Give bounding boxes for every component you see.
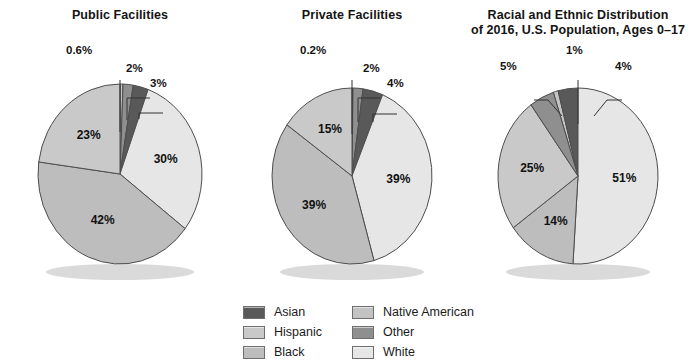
- chart-title-2: Racial and Ethnic Distribution of 2016, …: [462, 8, 694, 38]
- pie-slice-value-black: 42%: [91, 213, 115, 227]
- legend-item-label: Native American: [383, 306, 474, 319]
- pie-slice-value-white: 30%: [154, 152, 178, 166]
- pie-chart-2: 51%14%25%: [480, 80, 676, 276]
- pie-chart-0: 30%42%23%: [20, 76, 220, 276]
- pie-slice-value-hispanic: 15%: [318, 122, 342, 136]
- callout-2-asian: 4%: [615, 60, 632, 72]
- pie-shadow-2: [506, 264, 650, 280]
- legend-item-other: Other: [352, 324, 474, 341]
- legend-swatch-icon: [243, 306, 265, 319]
- legend-item-asian: Asian: [243, 304, 322, 321]
- pie-panel-private-facilities: Private Facilities 0.2% 2% 4% 39%39%15%: [236, 0, 468, 300]
- chart-title-0-line1: Public Facilities: [72, 8, 168, 22]
- legend-swatch-icon: [352, 346, 374, 359]
- pie-slice-value-black: 39%: [302, 198, 326, 212]
- pie-chart-1: 39%39%15%: [254, 80, 450, 276]
- legend-items: AsianNative AmericanHispanicOtherBlackWh…: [243, 304, 474, 360]
- legend-swatch-icon: [243, 346, 265, 359]
- legend-item-label: Hispanic: [274, 326, 322, 339]
- pie-slice-value-white: 39%: [386, 172, 410, 186]
- legend-item-label: Asian: [274, 306, 305, 319]
- chart-legend: AsianNative AmericanHispanicOtherBlackWh…: [0, 300, 694, 360]
- legend-item-native-american: Native American: [352, 304, 474, 321]
- callout-1-native-american: 0.2%: [300, 44, 326, 56]
- pie-svg-0: 30%42%23%: [20, 76, 220, 276]
- legend-item-label: Other: [383, 326, 414, 339]
- callout-0-native-american: 0.6%: [66, 44, 92, 56]
- pie-panel-public-facilities: Public Facilities 0.6% 2% 3% 30%42%23%: [0, 0, 240, 300]
- chart-canvas: Public Facilities 0.6% 2% 3% 30%42%23% P…: [0, 0, 694, 360]
- pie-panel-us-population: Racial and Ethnic Distribution of 2016, …: [462, 0, 694, 300]
- chart-title-2-line2: of 2016, U.S. Population, Ages 0–17: [462, 23, 694, 38]
- pie-svg-1: 39%39%15%: [254, 80, 450, 276]
- callout-1-other: 2%: [363, 62, 380, 74]
- callout-2-other: 5%: [500, 60, 517, 72]
- legend-item-black: Black: [243, 344, 322, 360]
- callout-2-native-american: 1%: [566, 44, 583, 56]
- pie-slice-value-white: 51%: [612, 171, 636, 185]
- pie-slice-value-hispanic: 25%: [520, 161, 544, 175]
- legend-swatch-icon: [352, 326, 374, 339]
- chart-title-0: Public Facilities: [0, 8, 240, 23]
- chart-title-2-line1: Racial and Ethnic Distribution: [488, 8, 669, 22]
- chart-title-1: Private Facilities: [236, 8, 468, 23]
- legend-item-white: White: [352, 344, 474, 360]
- pie-svg-2: 51%14%25%: [480, 80, 676, 276]
- chart-title-1-line1: Private Facilities: [302, 8, 402, 22]
- legend-swatch-icon: [243, 326, 265, 339]
- pie-shadow-1: [280, 264, 424, 280]
- legend-item-hispanic: Hispanic: [243, 324, 322, 341]
- callout-0-other: 2%: [126, 62, 143, 74]
- pie-shadow-0: [46, 264, 194, 280]
- pie-slice-value-hispanic: 23%: [77, 128, 101, 142]
- legend-item-label: Black: [274, 346, 305, 359]
- legend-swatch-icon: [352, 306, 374, 319]
- pie-slice-value-black: 14%: [544, 214, 568, 228]
- legend-item-label: White: [383, 346, 415, 359]
